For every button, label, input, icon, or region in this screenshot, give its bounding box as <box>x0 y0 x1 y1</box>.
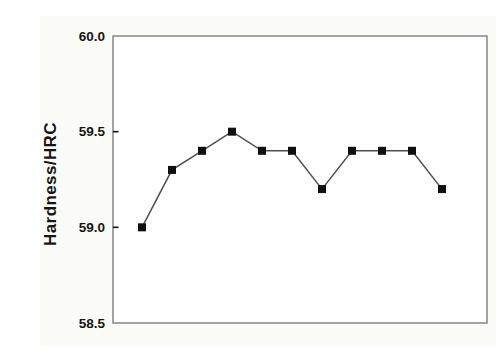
hardness-line-chart: 60.059.559.058.5Hardness/HRC <box>40 16 496 346</box>
y-axis-title: Hardness/HRC <box>41 122 60 246</box>
data-point <box>168 166 176 174</box>
data-point <box>288 147 296 155</box>
data-point <box>438 185 446 193</box>
data-point <box>198 147 206 155</box>
data-point <box>138 223 146 231</box>
data-point <box>378 147 386 155</box>
data-point <box>258 147 266 155</box>
y-tick-label: 60.0 <box>79 29 105 44</box>
data-point <box>348 147 356 155</box>
data-point <box>408 147 416 155</box>
y-tick-label: 59.0 <box>79 220 105 235</box>
data-point <box>318 185 326 193</box>
y-tick-label: 58.5 <box>79 316 106 331</box>
y-tick-label: 59.5 <box>79 124 106 139</box>
plot-area: 60.059.559.058.5Hardness/HRC <box>40 16 496 346</box>
data-point <box>228 128 236 136</box>
plot-frame <box>113 36 487 323</box>
